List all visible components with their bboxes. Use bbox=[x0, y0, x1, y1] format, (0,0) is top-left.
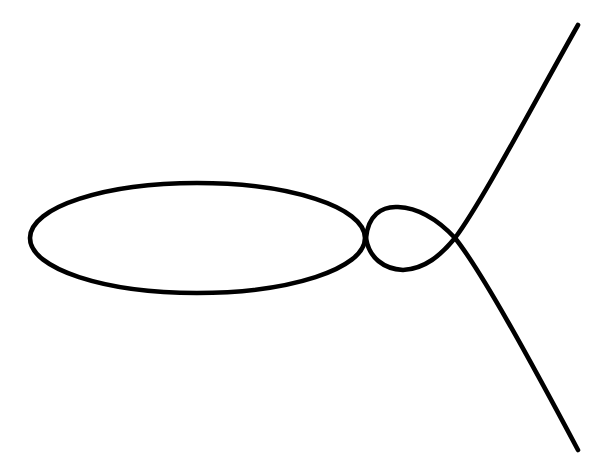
figure-container: Plane curve figure Hand-drawn black line… bbox=[0, 0, 609, 468]
curve-canvas: Plane curve figure Hand-drawn black line… bbox=[0, 0, 609, 468]
canvas-background bbox=[0, 0, 609, 468]
